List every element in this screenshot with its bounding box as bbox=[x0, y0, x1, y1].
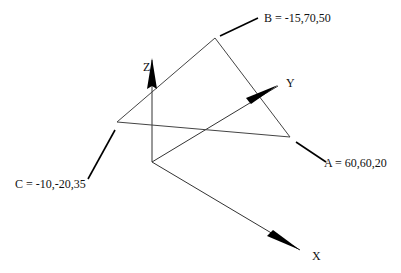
triangle-abc bbox=[117, 38, 290, 137]
point-c-label: C = -10,-20,35 bbox=[15, 178, 86, 190]
y-arrowhead-icon bbox=[246, 85, 278, 104]
point-a-label: A = 60,60,20 bbox=[324, 157, 387, 169]
leader-a bbox=[296, 142, 326, 162]
leader-b bbox=[220, 18, 258, 36]
x-arrowhead-icon bbox=[267, 230, 300, 250]
point-b-label: B = -15,70,50 bbox=[264, 12, 331, 24]
z-axis-label: Z bbox=[143, 61, 150, 73]
x-axis-label: X bbox=[312, 250, 321, 262]
y-axis-label: Y bbox=[286, 77, 295, 89]
3d-axes-diagram bbox=[0, 0, 401, 273]
axes bbox=[152, 60, 300, 250]
leader-c bbox=[88, 130, 115, 179]
leader-lines bbox=[88, 18, 326, 179]
